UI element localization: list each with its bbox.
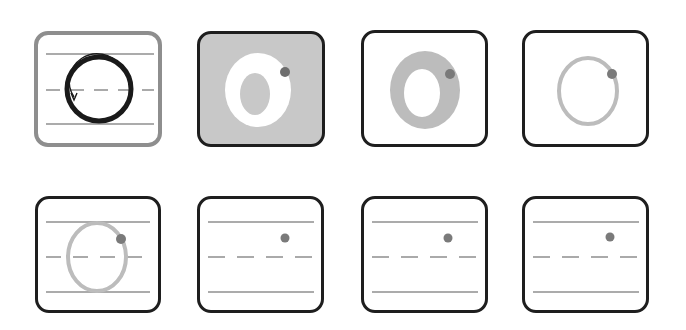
card-step-8[interactable] — [522, 196, 649, 313]
card-step-5[interactable] — [35, 196, 161, 313]
start-dot-icon — [606, 233, 615, 242]
thick-o-inner — [240, 73, 270, 115]
start-dot-icon — [281, 234, 290, 243]
start-dot-icon — [444, 234, 453, 243]
start-dot-icon — [280, 67, 290, 77]
card-step-6[interactable] — [197, 196, 324, 313]
thin-o-diagram — [525, 33, 646, 144]
card-step-3[interactable] — [361, 30, 488, 147]
start-dot-icon — [445, 69, 455, 79]
blank-lines-diagram — [525, 199, 646, 310]
gray-thick-o-diagram — [364, 33, 485, 144]
blank-lines-diagram — [364, 199, 485, 310]
card-step-2[interactable] — [197, 31, 325, 147]
white-thick-o-diagram — [200, 34, 322, 144]
card-step-4[interactable] — [522, 30, 649, 147]
card-step-7[interactable] — [361, 196, 488, 313]
thin-o-outline — [559, 58, 617, 124]
blank-lines-diagram — [200, 199, 321, 310]
card-step-1[interactable] — [34, 31, 162, 147]
letter-o-trace-diagram — [38, 35, 162, 147]
start-dot-icon — [116, 234, 126, 244]
thin-o-on-lines-diagram — [38, 199, 158, 310]
bold-circle-icon — [67, 57, 131, 121]
start-dot-icon — [607, 69, 617, 79]
thick-o-inner — [404, 69, 440, 117]
